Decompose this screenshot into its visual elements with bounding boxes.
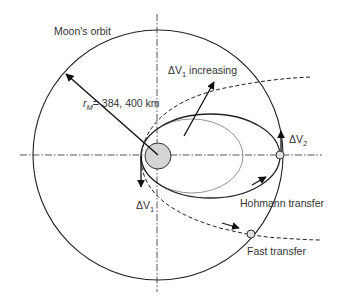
fast-transfer-label: Fast transfer (247, 245, 306, 257)
radius-label: rM= 384, 400 km (83, 97, 160, 112)
dv1-increasing-arrow (184, 82, 214, 136)
dv1-increasing-label: ΔV1 increasing (168, 64, 237, 79)
moon-hohmann-position (276, 151, 284, 159)
moons-orbit-label: Moon's orbit (54, 25, 111, 37)
hohmann-direction-arrow (252, 177, 266, 185)
radius-arrow (66, 74, 158, 155)
dv1-label: ΔV1 (136, 199, 154, 214)
hohmann-transfer-label: Hohmann transfer (240, 197, 325, 209)
moon-fast-position (247, 230, 255, 238)
dv2-label: ΔV2 (289, 133, 307, 148)
transfer-diagram: Moon's orbit rM= 384, 400 km ΔV1 increas… (0, 0, 340, 308)
fast-direction-arrow (222, 223, 239, 228)
